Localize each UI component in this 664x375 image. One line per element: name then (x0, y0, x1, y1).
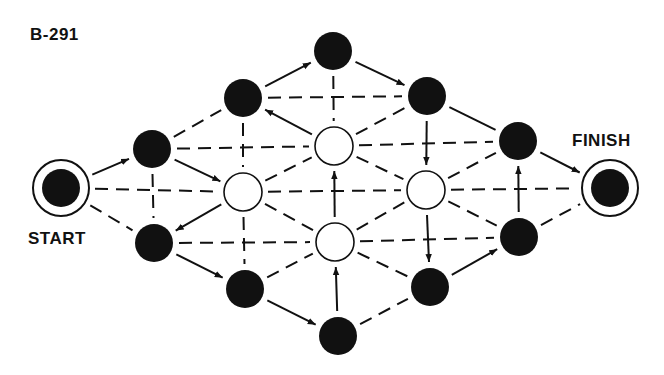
black-circle (408, 77, 446, 115)
black-circle (314, 32, 352, 70)
black-circle (411, 268, 449, 306)
edge-dashed-START-A2 (90, 205, 132, 230)
start-label: START (28, 229, 86, 249)
node-Bo-black (319, 317, 357, 355)
edge-arrow-B2-Bo (267, 300, 315, 324)
edge-dashed-B1-C1 (268, 96, 402, 97)
white-circle (315, 127, 353, 165)
edges-layer (90, 62, 580, 325)
nodes-layer (33, 32, 638, 355)
black-circle (500, 218, 538, 256)
node-W3-white (316, 223, 354, 261)
edge-arrow-A1-W1 (175, 160, 221, 182)
edge-dashed-A1-B1 (174, 110, 221, 137)
edge-arrow-W1-A2 (176, 204, 222, 230)
edge-dashed-W1-W2 (265, 157, 311, 180)
edge-dashed-START-W1 (95, 189, 218, 192)
edge-dashed-W4-D2 (448, 201, 496, 225)
edge-arrow-T-C1 (356, 62, 405, 85)
edge-arrow-W4-C2 (427, 215, 429, 262)
node-D1-black (499, 122, 537, 160)
maze-diagram (0, 0, 664, 375)
node-C1-black (408, 77, 446, 115)
edge-arrow-A2-B2 (176, 254, 222, 277)
edge-arrow-Bo-W3 (336, 267, 337, 311)
node-A1-black (133, 130, 171, 168)
black-circle (319, 317, 357, 355)
black-circle (224, 79, 262, 117)
terminal-dot (42, 169, 80, 207)
finish-label: FINISH (572, 131, 631, 151)
node-FINISH-terminal (582, 160, 638, 216)
node-A2-black (135, 224, 173, 262)
edge-arrow-START-A1 (92, 159, 129, 175)
node-W2-white (315, 127, 353, 165)
black-circle (226, 270, 264, 308)
white-circle (224, 173, 262, 211)
puzzle-id-label: B-291 (30, 25, 79, 45)
edge-dashed-W2-W4 (357, 157, 404, 179)
node-START-terminal (33, 160, 89, 216)
edge-arrow-C2-D2 (452, 249, 497, 275)
edge-arrow-D1-FINISH (540, 152, 579, 172)
edge-dashed-W1-B2 (244, 217, 245, 264)
white-circle (407, 171, 445, 209)
edge-dashed-B2-W3 (267, 254, 313, 278)
edge-arrow-B1-T (265, 63, 311, 87)
node-W1-white (224, 173, 262, 211)
black-circle (133, 130, 171, 168)
edge-dashed-W1-W3 (265, 204, 313, 230)
edge-solid-C1-D1 (449, 107, 495, 130)
node-D2-black (500, 218, 538, 256)
node-W4-white (407, 171, 445, 209)
edge-dashed-Bo-C2 (360, 299, 408, 324)
edge-dashed-W2-C1 (356, 108, 405, 134)
edge-dashed-W4-FINISH (451, 188, 576, 189)
edge-dashed-A1-A2 (153, 174, 154, 218)
node-C2-black (411, 268, 449, 306)
edge-dashed-W4-D1 (448, 153, 496, 178)
node-B2-black (226, 270, 264, 308)
edge-arrow-W2-B1 (265, 110, 312, 135)
node-B1-black (224, 79, 262, 117)
node-T-black (314, 32, 352, 70)
black-circle (499, 122, 537, 160)
black-circle (135, 224, 173, 262)
edge-dashed-W3-C2 (358, 253, 408, 277)
edge-dashed-D2-FINISH (541, 204, 580, 225)
terminal-dot (591, 169, 629, 207)
edge-dashed-W3-W4 (357, 202, 405, 229)
white-circle (316, 223, 354, 261)
